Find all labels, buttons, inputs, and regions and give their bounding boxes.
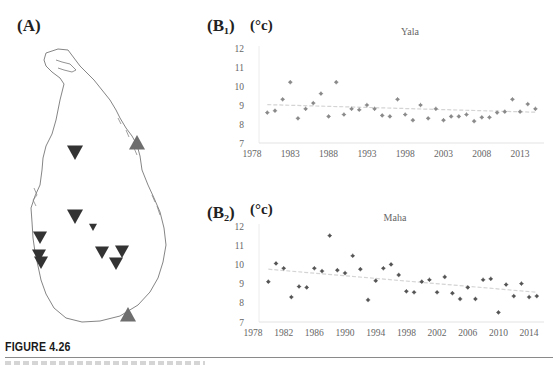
data-point <box>427 278 431 282</box>
x-tick-label: 1990 <box>336 328 355 338</box>
trend-line <box>268 269 536 292</box>
caption-rule <box>5 357 553 358</box>
x-tick-label: 2002 <box>428 328 447 338</box>
data-point <box>473 297 477 301</box>
data-point <box>281 266 285 270</box>
x-tick-label: 1998 <box>397 328 416 338</box>
chart-svg: 7891011121978198219861990199419982002200… <box>0 0 560 365</box>
data-point <box>274 261 278 265</box>
data-point <box>343 271 347 275</box>
x-tick-label: 1986 <box>305 328 324 338</box>
data-point <box>335 268 339 272</box>
data-point <box>404 289 408 293</box>
chart-title: Maha <box>384 212 407 223</box>
data-point <box>266 279 270 283</box>
data-point <box>504 282 508 286</box>
data-point <box>412 290 416 294</box>
chart-b2-maha: 7891011121978198219861990199419982002200… <box>0 0 560 365</box>
data-point <box>420 279 424 283</box>
data-point <box>289 295 293 299</box>
data-point <box>366 298 370 302</box>
data-point <box>304 285 308 289</box>
data-point <box>351 254 355 258</box>
data-point <box>458 297 462 301</box>
data-point <box>519 281 523 285</box>
x-tick-label: 2014 <box>520 328 539 338</box>
data-point <box>496 310 500 314</box>
data-point <box>450 291 454 295</box>
data-point <box>358 267 362 271</box>
caption-text-stub <box>5 361 205 365</box>
data-point <box>397 273 401 277</box>
data-point <box>481 278 485 282</box>
data-point <box>312 266 316 270</box>
data-point <box>535 294 539 298</box>
x-tick-label: 2010 <box>489 328 508 338</box>
x-tick-label: 2006 <box>458 328 477 338</box>
data-point <box>374 279 378 283</box>
y-tick-label: 7 <box>239 318 244 328</box>
x-tick-label: 1994 <box>366 328 385 338</box>
y-tick-label: 11 <box>235 241 244 251</box>
data-point <box>443 275 447 279</box>
data-point <box>320 269 324 273</box>
x-tick-label: 1982 <box>274 328 293 338</box>
data-point <box>381 266 385 270</box>
y-tick-label: 9 <box>239 279 244 289</box>
x-tick-label: 1978 <box>244 328 263 338</box>
data-point <box>489 277 493 281</box>
figure-title: FIGURE 4.26 <box>5 340 71 354</box>
data-point <box>389 262 393 266</box>
data-point <box>297 284 301 288</box>
y-tick-label: 10 <box>235 260 245 270</box>
y-tick-label: 8 <box>239 298 244 308</box>
data-point <box>512 294 516 298</box>
y-tick-label: 12 <box>235 222 245 232</box>
data-point <box>435 290 439 294</box>
data-point <box>527 295 531 299</box>
data-point <box>328 233 332 237</box>
